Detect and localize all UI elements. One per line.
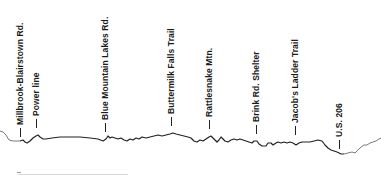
- tick-mark: [171, 117, 172, 126]
- landmark-millbrook-blairstown-rd: Millbrook-Blairstown Rd.: [15, 22, 25, 137]
- tick-mark: [209, 120, 210, 129]
- scan-artifact-line: [18, 174, 128, 175]
- landmark-label: Jacob's Ladder Trail: [290, 39, 300, 123]
- landmark-blue-mountain-lakes-rd: Blue Mountain Lakes Rd.: [100, 17, 110, 132]
- profile-line: [20, 133, 344, 154]
- landmark-label: U.S. 206: [334, 103, 344, 137]
- tick-mark: [295, 126, 296, 135]
- tick-mark: [36, 119, 37, 128]
- landmark-label: Rattlesnake Mtn.: [204, 48, 214, 117]
- scan-artifact-dot: [17, 172, 21, 173]
- elevation-profile: [0, 0, 381, 178]
- landmark-label: Millbrook-Blairstown Rd.: [15, 22, 25, 125]
- landmark-brink-rd-shelter: Brink Rd. Shelter: [251, 51, 261, 134]
- landmark-us-206: U.S. 206: [334, 103, 344, 149]
- landmark-power-line: Power line: [31, 72, 41, 128]
- landmark-rattlesnake-mtn: Rattlesnake Mtn.: [204, 48, 214, 129]
- tick-mark: [339, 140, 340, 149]
- tick-mark: [20, 128, 21, 137]
- landmark-label: Blue Mountain Lakes Rd.: [100, 17, 110, 120]
- landmark-label: Buttermilk Falls Trail: [166, 28, 176, 114]
- landmark-label: Power line: [31, 72, 41, 116]
- profile-line-end: [344, 138, 381, 154]
- tick-mark: [256, 125, 257, 134]
- tick-mark: [105, 123, 106, 132]
- landmark-label: Brink Rd. Shelter: [251, 51, 261, 122]
- landmark-jacobs-ladder-trail: Jacob's Ladder Trail: [290, 39, 300, 135]
- landmark-buttermilk-falls-trail: Buttermilk Falls Trail: [166, 28, 176, 126]
